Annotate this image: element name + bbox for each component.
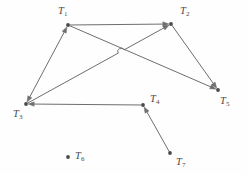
- node-dot-t7[interactable]: [168, 151, 172, 155]
- node-label-subscript: 5: [226, 100, 230, 108]
- edge-t1-t5: [70, 26, 213, 88]
- node-label-subscript: 2: [186, 10, 190, 18]
- graph-canvas: [0, 0, 247, 174]
- node-label-subscript: 4: [156, 98, 160, 106]
- node-label-t3: T3: [13, 109, 23, 121]
- node-label-subscript: 3: [19, 113, 23, 121]
- node-dot-t4[interactable]: [141, 103, 145, 107]
- node-label-t1: T1: [58, 6, 68, 18]
- node-dot-t5[interactable]: [216, 88, 220, 92]
- node-label-t6: T6: [75, 151, 85, 163]
- arrowhead-t3-to-t2: [163, 25, 170, 30]
- node-label-t5: T5: [220, 96, 230, 108]
- node-dot-t6[interactable]: [66, 155, 70, 159]
- node-dot-t1[interactable]: [66, 23, 70, 27]
- node-label-t7: T7: [176, 157, 186, 169]
- edge-t1-t2: [70, 24, 166, 25]
- node-label-t2: T2: [180, 6, 190, 18]
- edge-t4-t3: [31, 104, 141, 105]
- node-label-subscript: 1: [64, 10, 68, 18]
- arrowhead-t3-to-t1: [62, 27, 67, 34]
- arrowhead-t7-to-t4: [144, 107, 149, 114]
- graph-figure: T1T2T3T4T5T6T7: [0, 0, 247, 174]
- node-label-subscript: 7: [182, 161, 186, 169]
- node-label-subscript: 6: [81, 155, 85, 163]
- edge-t1-t3: [29, 30, 66, 99]
- node-label-t4: T4: [150, 94, 160, 106]
- node-dot-t2[interactable]: [169, 22, 173, 26]
- edge-t7-t4: [146, 110, 169, 152]
- node-dot-t3[interactable]: [24, 102, 28, 106]
- edge-t2-t5: [172, 26, 215, 86]
